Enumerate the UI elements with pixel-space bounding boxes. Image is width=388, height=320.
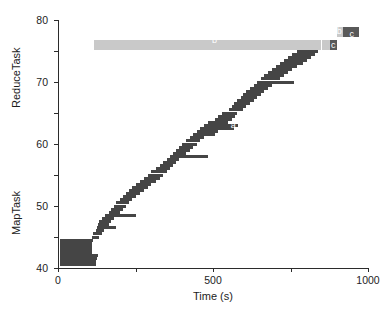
map-task-bar — [140, 180, 156, 183]
y-tick-label: 50 — [36, 200, 48, 212]
map-task-bar — [215, 118, 232, 121]
gantt-chart-figure: ReduceTask MapTask 01020304050607080 050… — [0, 0, 388, 320]
map-task-bar — [193, 133, 214, 136]
map-task-bar — [136, 183, 151, 186]
y-tick-label: 80 — [36, 14, 48, 26]
map-task-bar — [93, 232, 101, 235]
x-tick: 1000 — [213, 268, 214, 272]
map-task-bar — [60, 242, 93, 245]
x-tick: 0 — [58, 268, 59, 272]
map-task-bar — [144, 177, 160, 180]
map-task-bar — [176, 149, 190, 152]
map-task-bar — [190, 136, 204, 139]
map-task-bar — [200, 127, 234, 130]
map-task-bar — [173, 152, 186, 155]
map-task-bar — [197, 130, 219, 133]
x-tick-label: 0 — [55, 274, 61, 286]
map-task-bar — [60, 263, 96, 266]
map-task-bar — [208, 121, 229, 124]
map-task-bar — [148, 174, 164, 177]
plot-area: 01020304050607080 0500100015002000 abbcc — [58, 20, 368, 268]
y-tick: 70 — [54, 51, 58, 52]
map-task-bar — [97, 226, 116, 229]
map-task-bar — [243, 93, 261, 96]
reduce-task-bar — [94, 40, 322, 50]
map-task-bar — [120, 198, 132, 201]
map-task-bar — [60, 245, 93, 248]
map-task-bar — [160, 164, 173, 167]
map-task-bar — [297, 50, 318, 53]
map-task-bar — [60, 260, 96, 263]
map-task-bar — [218, 115, 234, 118]
y-tick-label: 60 — [36, 138, 48, 150]
y-tick: 60 — [54, 82, 58, 83]
map-task-bar — [151, 170, 167, 173]
map-task-bar — [163, 161, 176, 164]
map-task-bar — [232, 105, 247, 108]
map-task-bar — [182, 143, 197, 146]
map-task-bar — [60, 254, 98, 257]
map-task-bar — [105, 214, 136, 217]
y-tick: 50 — [54, 113, 58, 114]
map-task-bar — [129, 189, 145, 192]
map-task-bar — [229, 108, 244, 111]
map-task-bar — [241, 96, 258, 99]
map-task-bar — [250, 87, 268, 90]
map-task-bar — [261, 77, 280, 80]
map-task-bar — [246, 90, 264, 93]
y-axis-label-maptask: MapTask — [10, 191, 22, 235]
map-task-bar — [60, 248, 93, 251]
x-tick-label: 500 — [204, 274, 222, 286]
map-task-bar — [204, 124, 238, 127]
map-task-bar — [123, 195, 136, 198]
map-task-bar — [234, 102, 250, 105]
x-axis-label: Time (s) — [58, 290, 368, 302]
map-task-bar — [167, 158, 180, 161]
map-task-bar — [254, 84, 272, 87]
map-task-bar — [288, 56, 311, 59]
map-task-bar — [237, 99, 253, 102]
map-task-bar — [156, 167, 170, 170]
map-task-bar — [268, 71, 289, 74]
map-task-bar — [284, 59, 307, 62]
reduce-task-bar — [343, 27, 359, 37]
map-task-bar — [99, 220, 112, 223]
map-task-bar — [111, 208, 123, 211]
map-task-bar — [60, 239, 94, 242]
map-task-bar — [60, 257, 97, 260]
map-task-bar — [126, 192, 140, 195]
y-tick-label: 70 — [36, 76, 48, 88]
map-task-bar — [179, 146, 193, 149]
map-task-bar — [132, 186, 148, 189]
map-task-bar — [102, 217, 114, 220]
map-task-bar — [92, 236, 98, 239]
y-tick: 10 — [54, 237, 58, 238]
y-tick: 80 — [54, 20, 58, 21]
map-task-bar — [96, 229, 105, 232]
map-task-bar — [170, 155, 208, 158]
map-task-bar — [222, 112, 237, 115]
x-tick: 1500 — [291, 268, 292, 272]
map-task-bar — [109, 211, 120, 214]
map-task-bar — [116, 201, 129, 204]
map-task-bar — [186, 139, 200, 142]
map-task-bar — [272, 68, 293, 71]
map-task-bar — [292, 53, 315, 56]
y-tick-label: 40 — [36, 262, 48, 274]
map-task-bar — [276, 65, 298, 68]
map-task-bar — [60, 251, 93, 254]
map-task-bar — [98, 223, 109, 226]
reduce-task-bar — [330, 40, 337, 50]
y-tick: 20 — [54, 206, 58, 207]
x-tick-label: 1000 — [356, 274, 379, 286]
x-tick: 500 — [136, 268, 137, 272]
y-tick: 30 — [54, 175, 58, 176]
map-task-bar — [280, 62, 303, 65]
map-task-bar — [257, 81, 293, 84]
x-tick: 2000 — [368, 268, 369, 272]
map-task-bar — [264, 74, 284, 77]
map-task-bar — [114, 205, 126, 208]
y-tick: 40 — [54, 144, 58, 145]
y-axis-label-reducetask: ReduceTask — [10, 47, 22, 108]
